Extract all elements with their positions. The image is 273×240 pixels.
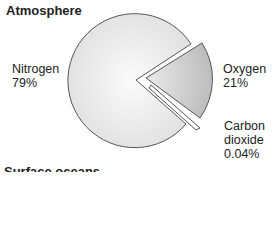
next-section-title: Surface oceans — [4, 164, 100, 172]
label-carbon-dioxide: Carbon dioxide 0.04% — [224, 119, 265, 161]
label-oxygen: Oxygen 21% — [223, 62, 266, 90]
label-nitrogen: Nitrogen 79% — [12, 62, 59, 90]
